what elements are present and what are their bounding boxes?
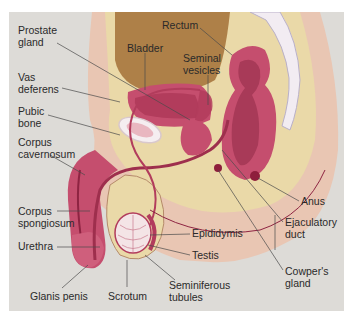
label-corpus-spongiosum: Corpus spongiosum (18, 206, 75, 229)
label-seminiferous-tubules: Seminiferous tubules (169, 280, 230, 303)
label-cowpers-gland: Cowper's gland (285, 266, 328, 289)
label-scrotum: Scrotum (108, 291, 147, 303)
label-pubic-bone: Pubic bone (18, 106, 44, 129)
label-urethra: Urethra (18, 241, 53, 253)
label-prostate-gland: Prostate gland (18, 25, 57, 48)
label-testis: Testis (192, 250, 219, 262)
label-glanis-penis: Glanis penis (30, 291, 88, 303)
label-bladder: Bladder (127, 43, 163, 55)
label-epididymis: Epididymis (192, 228, 243, 240)
label-corpus-cavernosum: Corpus cavernosum (18, 137, 75, 160)
label-seminal-vesicles: Seminal vesicles (183, 53, 221, 76)
label-ejaculatory-duct: Ejaculatory duct (285, 217, 337, 240)
label-rectum: Rectum (162, 20, 198, 32)
label-vas-deferens: Vas deferens (18, 72, 59, 95)
label-anus: Anus (301, 196, 325, 208)
